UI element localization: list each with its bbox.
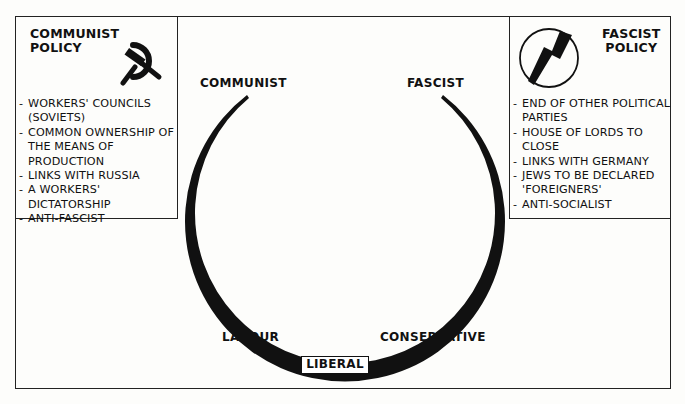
- communist-policy-list: WORKERS' COUNCILS (SOVIETS) COMMON OWNER…: [19, 97, 177, 227]
- title-line: FASCIST: [602, 27, 661, 41]
- list-item: ANTI-SOCIALIST: [513, 198, 670, 212]
- title-line: COMMUNIST: [30, 27, 119, 41]
- label-communist: COMMUNIST: [200, 76, 287, 90]
- list-item: END OF OTHER POLITICAL PARTIES: [513, 97, 670, 126]
- communist-policy-panel: COMMUNIST POLICY WORKERS' COUNCILS (SOVI…: [15, 16, 178, 219]
- list-item: LINKS WITH GERMANY: [513, 155, 670, 169]
- label-liberal: LIBERAL: [301, 356, 369, 374]
- label-conservative: CONSERVATIVE: [380, 330, 486, 344]
- hammer-and-sickle-icon: [111, 31, 171, 91]
- list-item: LINKS WITH RUSSIA: [19, 169, 177, 183]
- label-fascist: FASCIST: [407, 76, 464, 90]
- list-item: WORKERS' COUNCILS (SOVIETS): [19, 97, 177, 126]
- communist-policy-title: COMMUNIST POLICY: [30, 27, 119, 55]
- list-item: HOUSE OF LORDS TO CLOSE: [513, 126, 670, 155]
- list-item: COMMON OWNERSHIP OF THE MEANS OF PRODUCT…: [19, 126, 177, 169]
- list-item: ANTI-FASCIST: [19, 212, 177, 226]
- fascist-policy-list: END OF OTHER POLITICAL PARTIES HOUSE OF …: [513, 97, 670, 212]
- fascist-policy-title: FASCIST POLICY: [602, 27, 661, 55]
- flash-and-circle-icon: [516, 25, 582, 91]
- list-item: JEWS TO BE DECLARED 'FOREIGNERS': [513, 169, 670, 198]
- label-labour: LABOUR: [222, 330, 279, 344]
- title-line: POLICY: [30, 41, 119, 55]
- list-item: A WORKERS' DICTATORSHIP: [19, 183, 177, 212]
- title-line: POLICY: [602, 41, 661, 55]
- fascist-policy-panel: FASCIST POLICY END OF OTHER POLITICAL PA…: [509, 16, 671, 219]
